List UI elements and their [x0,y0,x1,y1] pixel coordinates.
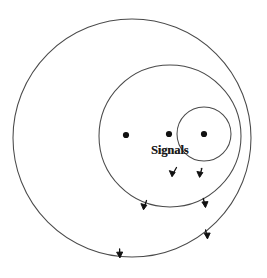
outer-wavefront-circle [13,19,251,257]
source-dot-2 [166,131,172,137]
signals-wavefront-diagram: Signals [0,0,267,278]
wavefront-canvas [0,0,267,278]
arrow-inner-right [197,169,203,178]
source-dot-1 [123,132,129,138]
source-dot-3 [201,131,207,137]
arrow-middle-right [202,199,208,208]
signals-label: Signals [151,144,189,157]
arrow-inner-left [169,168,176,177]
